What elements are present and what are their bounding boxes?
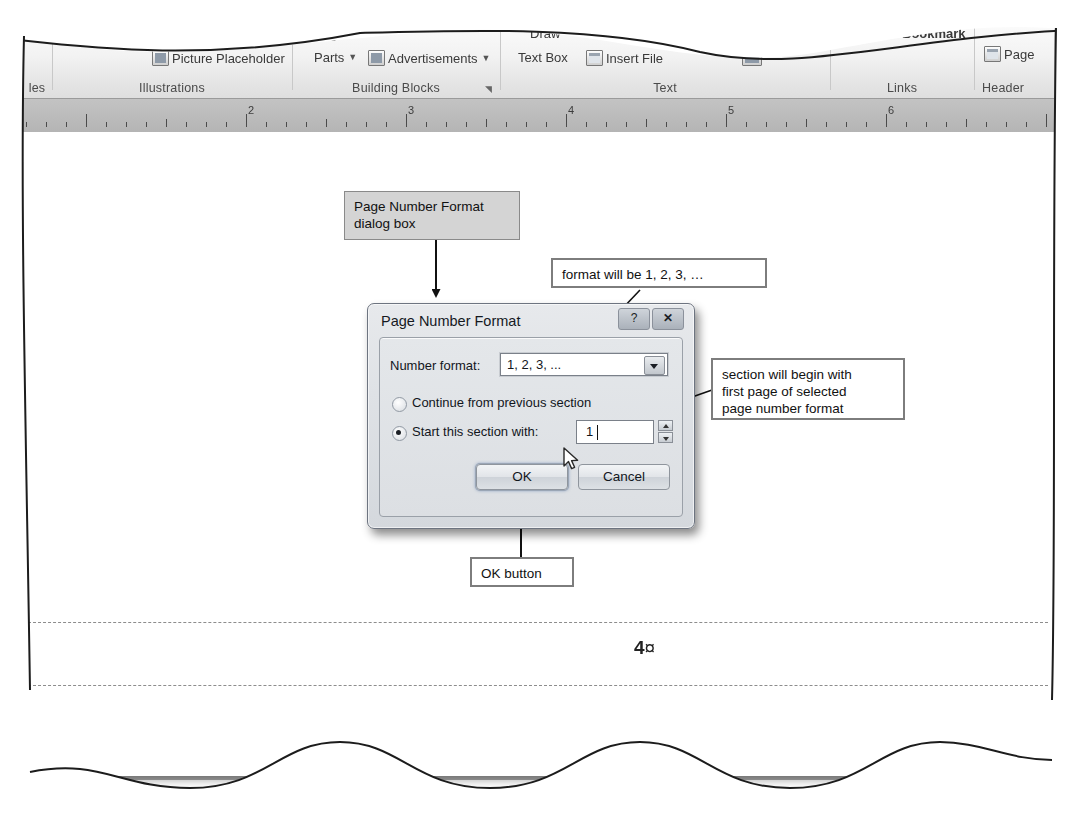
torn-edge-mask	[0, 0, 1073, 814]
figure-root: les Picture Shapes Picture Placeholder I…	[0, 0, 1073, 814]
